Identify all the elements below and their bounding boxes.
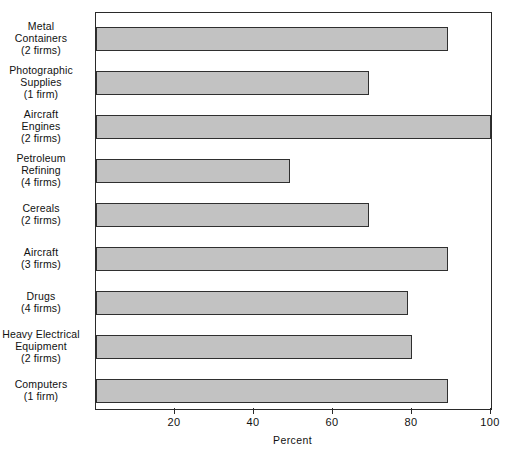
category-label-5: Aircraft(3 firms) bbox=[0, 246, 85, 271]
category-firm-count: (2 firms) bbox=[0, 132, 85, 144]
category-name: Aircraft Engines bbox=[22, 108, 61, 132]
category-firm-count: (4 firms) bbox=[0, 176, 85, 188]
bar-4 bbox=[96, 203, 369, 227]
category-label-6: Drugs(4 firms) bbox=[0, 290, 85, 315]
category-firm-count: (4 firms) bbox=[0, 302, 85, 314]
x-tick-label-20: 20 bbox=[154, 416, 194, 428]
category-name: Metal Containers bbox=[15, 20, 67, 44]
x-axis-title: Percent bbox=[95, 434, 490, 446]
category-label-8: Computers(1 firm) bbox=[0, 378, 85, 403]
category-name: Heavy Electrical Equipment bbox=[2, 328, 80, 352]
x-tick-label-60: 60 bbox=[312, 416, 352, 428]
category-name: Drugs bbox=[27, 290, 56, 302]
category-firm-count: (2 firms) bbox=[0, 44, 85, 56]
category-label-4: Cereals(2 firms) bbox=[0, 202, 85, 227]
x-tick-80 bbox=[411, 408, 412, 414]
bar-1 bbox=[96, 71, 369, 95]
category-firm-count: (2 firms) bbox=[0, 214, 85, 226]
category-firm-count: (1 firm) bbox=[0, 88, 85, 100]
x-tick-label-80: 80 bbox=[391, 416, 431, 428]
x-tick-40 bbox=[253, 408, 254, 414]
category-name: Petroleum Refining bbox=[16, 152, 65, 176]
category-name: Aircraft bbox=[24, 246, 58, 258]
x-tick-100 bbox=[490, 408, 491, 414]
x-axis: Percent 20406080100 bbox=[95, 408, 490, 454]
category-label-2: Aircraft Engines(2 firms) bbox=[0, 108, 85, 145]
bar-7 bbox=[96, 335, 412, 359]
bar-5 bbox=[96, 247, 448, 271]
bar-8 bbox=[96, 379, 448, 403]
x-tick-label-40: 40 bbox=[233, 416, 273, 428]
category-name: Cereals bbox=[22, 202, 59, 214]
plot-area bbox=[95, 12, 492, 410]
bar-0 bbox=[96, 27, 448, 51]
category-label-3: Petroleum Refining(4 firms) bbox=[0, 152, 85, 189]
category-label-1: Photographic Supplies(1 firm) bbox=[0, 64, 85, 101]
x-tick-20 bbox=[174, 408, 175, 414]
x-tick-label-100: 100 bbox=[470, 416, 510, 428]
bar-6 bbox=[96, 291, 408, 315]
x-tick-60 bbox=[332, 408, 333, 414]
category-label-column: Metal Containers(2 firms)Photographic Su… bbox=[0, 12, 90, 408]
category-label-7: Heavy Electrical Equipment(2 firms) bbox=[0, 328, 85, 365]
bar-2 bbox=[96, 115, 491, 139]
bar-3 bbox=[96, 159, 290, 183]
category-firm-count: (1 firm) bbox=[0, 390, 85, 402]
category-firm-count: (2 firms) bbox=[0, 352, 85, 364]
bar-chart: Metal Containers(2 firms)Photographic Su… bbox=[0, 0, 510, 455]
category-label-0: Metal Containers(2 firms) bbox=[0, 20, 85, 57]
category-name: Photographic Supplies bbox=[9, 64, 73, 88]
category-firm-count: (3 firms) bbox=[0, 258, 85, 270]
category-name: Computers bbox=[15, 378, 68, 390]
